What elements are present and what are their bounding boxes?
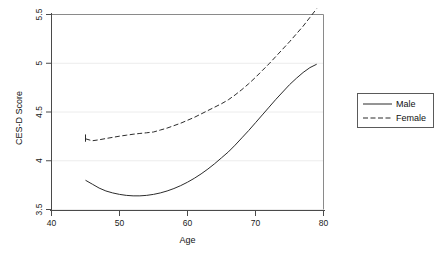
series-line-female [86, 9, 317, 141]
y-tick-labels: 5.5 5 4.5 4 3.5 [34, 8, 44, 215]
x-tick-label-80: 80 [319, 218, 329, 228]
series-line-male [86, 64, 317, 196]
y-tick-label-3.5: 3.5 [34, 203, 44, 215]
x-tick-label-40: 40 [47, 218, 57, 228]
chart-plot-svg: 5.5 5 4.5 4 3.5 CES-D Score 40 50 60 70 … [0, 0, 438, 254]
y-tick-label-5: 5 [34, 61, 44, 66]
chart-legend[interactable]: Male Female [358, 94, 434, 128]
x-tick-label-60: 60 [183, 218, 193, 228]
gridlines [51, 15, 323, 210]
y-tick-label-4.5: 4.5 [34, 106, 44, 118]
x-axis-title: Age [179, 235, 195, 245]
y-tick-label-5.5: 5.5 [34, 8, 44, 20]
x-tick-label-70: 70 [251, 218, 261, 228]
x-tick-labels: 40 50 60 70 80 [47, 218, 329, 228]
y-tick-label-4: 4 [34, 158, 44, 163]
data-series-group [86, 9, 317, 196]
x-tick-label-50: 50 [115, 218, 125, 228]
x-axis [50, 211, 325, 217]
legend-label-female: Female [396, 113, 426, 123]
y-axis [46, 13, 52, 211]
legend-label-male: Male [396, 99, 416, 109]
y-axis-title: CES-D Score [14, 91, 24, 145]
chart-container: 5.5 5 4.5 4 3.5 CES-D Score 40 50 60 70 … [0, 0, 438, 254]
